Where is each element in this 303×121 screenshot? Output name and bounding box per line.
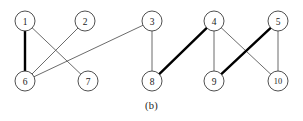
graph-node-3[interactable]: 3 — [142, 11, 162, 31]
node-label-4: 4 — [212, 17, 217, 27]
graph-edge-6-3 — [34, 25, 143, 76]
graph-edge-8-4 — [159, 28, 207, 74]
graph-node-6[interactable]: 6 — [15, 71, 35, 91]
graph-node-8[interactable]: 8 — [142, 71, 162, 91]
graph-node-4[interactable]: 4 — [204, 11, 224, 31]
node-label-7: 7 — [86, 77, 91, 87]
node-label-6: 6 — [23, 77, 28, 87]
node-label-5: 5 — [276, 17, 281, 27]
node-label-8: 8 — [150, 77, 155, 87]
node-label-1: 1 — [23, 17, 28, 27]
node-label-3: 3 — [150, 17, 155, 27]
figure-caption: (b) — [0, 100, 303, 111]
graph-node-7[interactable]: 7 — [78, 71, 98, 91]
graph-node-9[interactable]: 9 — [204, 71, 224, 91]
graph-node-2[interactable]: 2 — [75, 11, 95, 31]
node-label-9: 9 — [212, 77, 217, 87]
graph-edge-1-7 — [32, 28, 81, 74]
graph-node-5[interactable]: 5 — [268, 11, 288, 31]
node-label-2: 2 — [83, 17, 88, 27]
node-label-10: 10 — [274, 77, 282, 86]
figure-container: 12345678910 (b) — [0, 0, 303, 121]
graph-node-10[interactable]: 10 — [268, 71, 288, 91]
edge-layer — [25, 25, 278, 76]
graph-node-1[interactable]: 1 — [15, 11, 35, 31]
